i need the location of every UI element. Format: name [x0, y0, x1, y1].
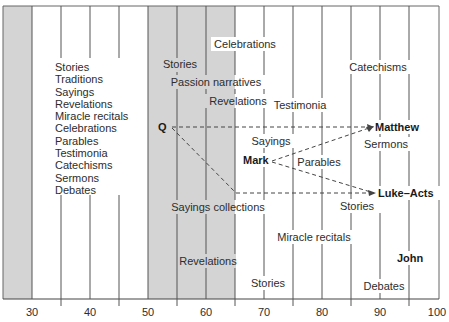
- shaded-region-25-30: [3, 6, 32, 299]
- label-testimonia: Testimonia: [274, 99, 327, 112]
- x-tick-90: 90: [374, 306, 386, 318]
- label-stories-bottom: Stories: [251, 277, 285, 290]
- stack-item: Catechisms: [55, 159, 128, 171]
- stack-item: Miracle recitals: [55, 110, 128, 122]
- label-revelations-top: Revelations: [209, 95, 266, 108]
- label-sayings-collections: Sayings collections: [171, 201, 265, 214]
- label-sayings: Sayings: [251, 135, 290, 148]
- label-catechisms: Catechisms: [349, 61, 406, 74]
- stack-item: Revelations: [55, 98, 128, 110]
- stack-item: Traditions: [55, 73, 128, 85]
- x-tick-70: 70: [258, 306, 270, 318]
- x-tick-80: 80: [316, 306, 328, 318]
- label-debates: Debates: [364, 280, 405, 293]
- document-mark: Mark: [243, 154, 269, 167]
- x-tick-100: 100: [428, 306, 446, 318]
- label-revelations-bottom: Revelations: [179, 255, 236, 268]
- label-stories-luke: Stories: [340, 200, 374, 213]
- label-passion-narratives: Passion narratives: [171, 76, 262, 89]
- x-tick-30: 30: [26, 306, 38, 318]
- document-luke-acts: Luke–Acts: [378, 187, 434, 200]
- document-john: John: [397, 252, 423, 265]
- stack-item: Sermons: [55, 172, 128, 184]
- oral-traditions-list: Stories Traditions Sayings Revelations M…: [55, 61, 128, 196]
- label-parables: Parables: [297, 156, 340, 169]
- label-celebrations: Celebrations: [214, 38, 276, 51]
- x-tick-50: 50: [142, 306, 154, 318]
- label-sermons: Sermons: [364, 138, 408, 151]
- label-miracle-recitals: Miracle recitals: [277, 231, 350, 244]
- stack-item: Sayings: [55, 86, 128, 98]
- document-matthew: Matthew: [375, 121, 419, 134]
- x-tick-40: 40: [84, 306, 96, 318]
- arrowheads: [366, 124, 376, 196]
- stack-item: Debates: [55, 184, 128, 196]
- stack-item: Testimonia: [55, 147, 128, 159]
- document-q: Q: [158, 121, 167, 134]
- stack-item: Parables: [55, 135, 128, 147]
- stack-item: Stories: [55, 61, 128, 73]
- label-stories-top: Stories: [163, 58, 197, 71]
- stack-item: Celebrations: [55, 122, 128, 134]
- x-tick-60: 60: [200, 306, 212, 318]
